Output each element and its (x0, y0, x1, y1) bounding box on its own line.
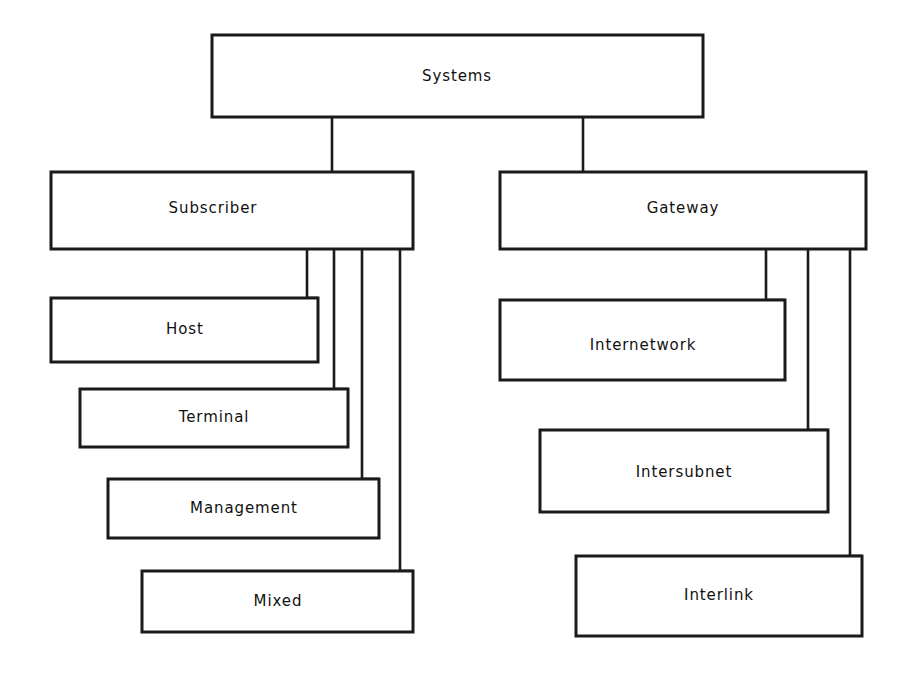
systems-hierarchy-diagram: SubscriberHostTerminalManagementMixedGat… (0, 0, 915, 673)
node-label-mixed: Mixed (254, 592, 303, 610)
node-label-terminal: Terminal (178, 408, 250, 426)
diagram-canvas: SubscriberHostTerminalManagementMixedGat… (0, 0, 915, 673)
nodes-layer: SubscriberHostTerminalManagementMixedGat… (51, 35, 866, 636)
node-intersubnet[interactable]: Intersubnet (540, 430, 828, 512)
node-interlink[interactable]: Interlink (576, 556, 862, 636)
node-label-internetwork: Internetwork (590, 336, 697, 354)
node-label-intersubnet: Intersubnet (636, 463, 733, 481)
node-label-gateway: Gateway (647, 199, 720, 217)
node-management[interactable]: Management (108, 479, 379, 538)
node-label-host: Host (166, 320, 204, 338)
node-terminal[interactable]: Terminal (80, 389, 348, 447)
node-internetwork[interactable]: Internetwork (500, 300, 785, 380)
node-host[interactable]: Host (51, 298, 318, 362)
node-label-subscriber: Subscriber (169, 199, 258, 217)
node-mixed[interactable]: Mixed (142, 571, 413, 632)
node-label-interlink: Interlink (684, 586, 754, 604)
node-gateway[interactable]: Gateway (500, 172, 866, 249)
node-subscriber[interactable]: Subscriber (51, 172, 413, 249)
node-label-management: Management (190, 499, 298, 517)
node-label-systems: Systems (422, 67, 492, 85)
node-systems[interactable]: Systems (212, 35, 703, 117)
